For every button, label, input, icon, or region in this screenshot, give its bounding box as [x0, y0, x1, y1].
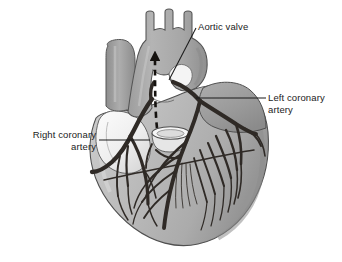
- left-coronary-artery-label: Left coronary artery: [268, 92, 325, 115]
- right-coronary-artery-label: Right coronary artery: [8, 129, 96, 152]
- figure-canvas: Aortic valve Left coronary artery Right …: [0, 0, 342, 262]
- right-coronary-proximal: [151, 82, 154, 100]
- pulmonary-stump-lumen: [157, 130, 184, 138]
- aortic-valve-label: Aortic valve: [198, 21, 248, 33]
